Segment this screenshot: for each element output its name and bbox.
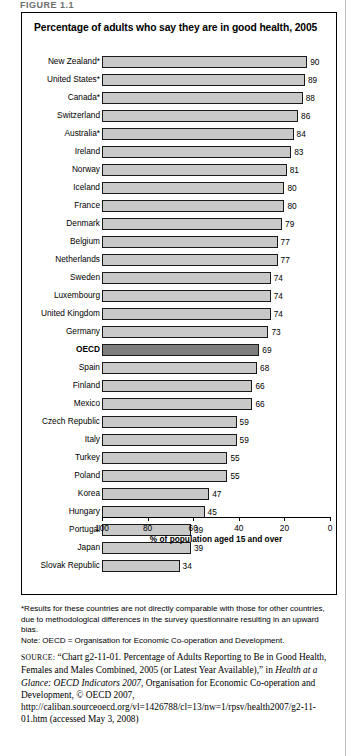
bar-track: 59 [102, 416, 330, 428]
category-label: OECD [22, 344, 100, 354]
category-label: Norway [22, 164, 100, 174]
bar [102, 470, 227, 482]
chart-row: United States*89 [22, 71, 338, 89]
category-label: Czech Republic [22, 416, 100, 426]
bar [102, 272, 271, 284]
category-label: Portugal [22, 524, 100, 534]
category-label: Italy [22, 434, 100, 444]
bar-track: 34 [102, 560, 330, 572]
bar-track: 86 [102, 110, 330, 122]
bar-track: 45 [102, 506, 330, 518]
category-label: Hungary [22, 506, 100, 516]
bar [102, 380, 252, 392]
bar-track: 59 [102, 434, 330, 446]
x-axis-tick [102, 517, 103, 521]
bar-value-label: 47 [212, 490, 221, 499]
bar [102, 236, 278, 248]
category-label: Turkey [22, 452, 100, 462]
category-label: Denmark [22, 218, 100, 228]
bar [102, 308, 271, 320]
oecd-definition-note: Note: OECD = Organisation for Economic C… [21, 636, 333, 647]
bar [102, 110, 298, 122]
chart-panel: Percentage of adults who say they are in… [21, 12, 337, 595]
chart-row: Germany73 [22, 323, 338, 341]
x-axis-tick-label: 0 [328, 523, 333, 533]
bar-value-label: 80 [287, 184, 296, 193]
page-edge-rule [345, 0, 346, 756]
chart-row: New Zealand*90 [22, 53, 338, 71]
bar-value-label: 74 [274, 274, 283, 283]
asterisk-note: *Results for these countries are not dir… [21, 604, 333, 636]
x-axis-title: % of population aged 15 and over [102, 534, 330, 544]
category-label: United Kingdom [22, 308, 100, 318]
category-label: Canada* [22, 92, 100, 102]
category-label: Belgium [22, 236, 100, 246]
chart-title: Percentage of adults who say they are in… [34, 22, 326, 34]
category-label: United States* [22, 74, 100, 84]
chart-row: Finland66 [22, 377, 338, 395]
bar [102, 200, 284, 212]
chart-row: Turkey55 [22, 449, 338, 467]
category-label: Ireland [22, 146, 100, 156]
category-label: New Zealand* [22, 56, 100, 66]
bar-track: 83 [102, 146, 330, 158]
bar-value-label: 55 [230, 454, 239, 463]
bar [102, 326, 268, 338]
chart-row: Norway81 [22, 161, 338, 179]
x-axis-tick [284, 517, 285, 521]
category-label: Luxembourg [22, 290, 100, 300]
x-axis-tick-label: 60 [189, 523, 198, 533]
chart-row: Canada*88 [22, 89, 338, 107]
chart-row: France80 [22, 197, 338, 215]
chart-row: Denmark79 [22, 215, 338, 233]
bar [102, 146, 291, 158]
bar-track: 47 [102, 488, 330, 500]
bar [102, 218, 282, 230]
bar-value-label: 81 [290, 166, 299, 175]
bar [102, 344, 259, 356]
category-label: Poland [22, 470, 100, 480]
x-axis: 100806040200 [102, 517, 330, 518]
bar [102, 560, 180, 572]
bar-value-label: 66 [255, 382, 264, 391]
bar-track: 66 [102, 398, 330, 410]
bar-value-label: 66 [255, 400, 264, 409]
x-axis-tick [148, 517, 149, 521]
category-label: Korea [22, 488, 100, 498]
chart-row: Netherlands77 [22, 251, 338, 269]
x-axis-tick [193, 517, 194, 521]
bar [102, 56, 307, 68]
bar [102, 506, 205, 518]
bar [102, 254, 278, 266]
category-label: Australia* [22, 128, 100, 138]
x-axis-tick [239, 517, 240, 521]
chart-row: Poland55 [22, 467, 338, 485]
category-label: Finland [22, 380, 100, 390]
chart-row: Luxembourg74 [22, 287, 338, 305]
bar-track: 74 [102, 308, 330, 320]
bar-track: 77 [102, 254, 330, 266]
category-label: Netherlands [22, 254, 100, 264]
x-axis-tick-label: 40 [234, 523, 243, 533]
bar-value-label: 88 [306, 94, 315, 103]
chart-row: Australia*84 [22, 125, 338, 143]
chart-row: Switzerland86 [22, 107, 338, 125]
bar [102, 362, 257, 374]
bar-value-label: 68 [260, 364, 269, 373]
x-axis-tick-label: 100 [95, 523, 109, 533]
bar-track: 90 [102, 56, 330, 68]
category-label: France [22, 200, 100, 210]
bar-track: 84 [102, 128, 330, 140]
bar-value-label: 84 [297, 130, 306, 139]
category-label: Germany [22, 326, 100, 336]
bar-track: 79 [102, 218, 330, 230]
bar-value-label: 34 [183, 562, 192, 571]
category-label: Spain [22, 362, 100, 372]
chart-row: Hungary45 [22, 503, 338, 521]
chart-row: Korea47 [22, 485, 338, 503]
bar-track: 68 [102, 362, 330, 374]
category-label: Iceland [22, 182, 100, 192]
bar-value-label: 69 [262, 346, 271, 355]
bar [102, 416, 237, 428]
chart-row: Slovak Republic34 [22, 557, 338, 575]
